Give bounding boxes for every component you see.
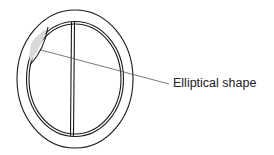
divider-left-edge (71, 22, 72, 136)
outer-ring (17, 10, 133, 148)
divider-right-edge (74, 22, 75, 136)
inner-ring-inner-edge (29, 24, 121, 134)
leader-line (41, 50, 169, 84)
callout-label-elliptical-shape: Elliptical shape (173, 76, 256, 91)
elliptical-shaded-region (30, 29, 47, 63)
